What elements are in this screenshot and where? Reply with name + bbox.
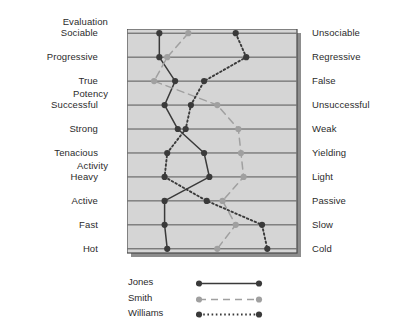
legend: Jones Smith Williams bbox=[128, 276, 293, 324]
left-pole-label-2: True bbox=[78, 75, 98, 86]
legend-item-smith: Smith bbox=[128, 292, 293, 307]
right-pole-label-5: Yielding bbox=[312, 147, 346, 158]
legend-swatch-jones bbox=[196, 276, 276, 291]
group-label-activity: Activity bbox=[0, 160, 108, 171]
left-pole-label-7: Active bbox=[72, 195, 98, 206]
left-pole-label-1: Progressive bbox=[47, 51, 98, 62]
plot-area bbox=[127, 29, 297, 253]
left-pole-label-4: Strong bbox=[69, 123, 98, 134]
right-pole-label-2: False bbox=[312, 75, 336, 86]
left-pole-label-6: Heavy bbox=[71, 171, 98, 182]
group-label-potency: Potency bbox=[0, 88, 108, 99]
legend-item-jones: Jones bbox=[128, 276, 293, 291]
profile-plot-svg bbox=[127, 29, 307, 263]
left-pole-label-8: Fast bbox=[79, 219, 98, 230]
legend-label-jones: Jones bbox=[128, 276, 192, 287]
legend-swatch-smith bbox=[196, 292, 276, 307]
right-pole-label-6: Light bbox=[312, 171, 333, 182]
legend-swatch-williams bbox=[196, 307, 276, 322]
legend-item-williams: Williams bbox=[128, 307, 293, 322]
left-pole-label-5: Tenacious bbox=[54, 147, 98, 158]
legend-label-williams: Williams bbox=[128, 307, 192, 318]
right-pole-label-9: Cold bbox=[312, 243, 332, 254]
right-pole-label-1: Regressive bbox=[312, 51, 361, 62]
left-pole-label-3: Successful bbox=[51, 99, 98, 110]
right-pole-label-0: Unsociable bbox=[312, 27, 360, 38]
right-pole-label-3: Unsuccessful bbox=[312, 99, 370, 110]
right-pole-label-7: Passive bbox=[312, 195, 346, 206]
legend-label-smith: Smith bbox=[128, 292, 192, 303]
left-pole-label-0: Sociable bbox=[61, 27, 98, 38]
right-pole-label-4: Weak bbox=[312, 123, 337, 134]
group-label-evaluation: Evaluation bbox=[0, 16, 108, 27]
left-pole-label-9: Hot bbox=[83, 243, 98, 254]
semantic-differential-figure: Evaluation Potency Activity Sociable Pro… bbox=[0, 0, 394, 331]
right-pole-label-8: Slow bbox=[312, 219, 333, 230]
